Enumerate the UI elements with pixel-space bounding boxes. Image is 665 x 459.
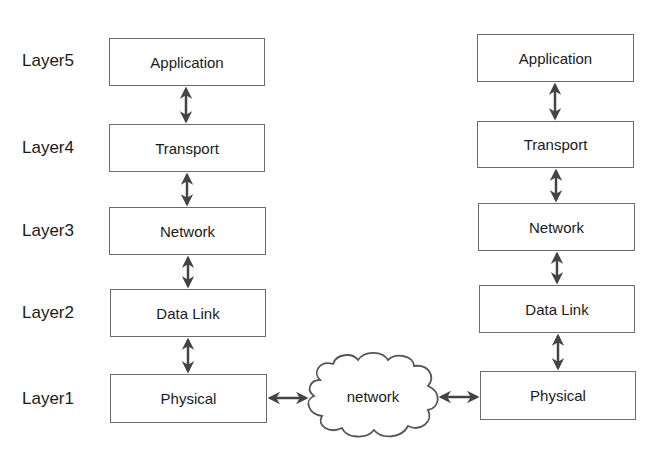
- vertical-arrows-right: [555, 85, 558, 368]
- cloud-label: network: [333, 388, 413, 405]
- vertical-arrows-left: [186, 89, 188, 371]
